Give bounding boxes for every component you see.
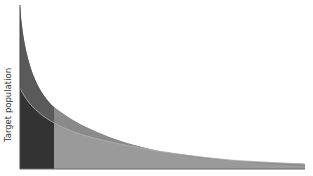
- long-tail-chart: [0, 0, 313, 176]
- y-axis-label-container: Target population: [0, 60, 16, 150]
- inner-curve-area: [20, 88, 305, 169]
- y-axis-label: Target population: [3, 68, 13, 142]
